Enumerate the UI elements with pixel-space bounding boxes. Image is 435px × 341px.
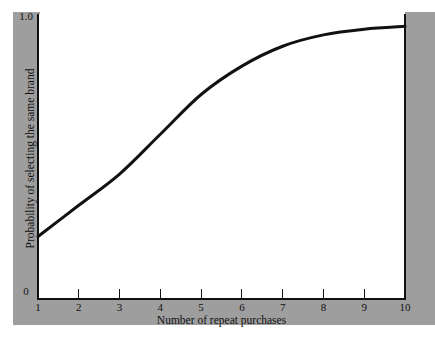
y-tick-label-top: 1.0 [14, 9, 38, 23]
x-tick-mark [160, 289, 161, 298]
x-tick-mark [119, 289, 120, 298]
x-tick-label: 10 [393, 300, 417, 314]
plot-area [38, 14, 405, 300]
x-tick-mark [364, 289, 365, 298]
y-axis-line [37, 14, 39, 300]
x-tick-label: 4 [148, 300, 172, 314]
x-tick-mark [282, 289, 283, 298]
decorative-band-right [405, 12, 435, 325]
x-axis-line [37, 298, 406, 300]
x-tick-mark [78, 289, 79, 298]
right-axis-line [404, 14, 406, 300]
figure-canvas: 12345678910 1.0 0 Number of repeat purch… [0, 0, 435, 341]
x-tick-label: 3 [108, 300, 132, 314]
x-tick-label: 7 [271, 300, 295, 314]
x-tick-label: 2 [67, 300, 91, 314]
x-tick-label: 5 [189, 300, 213, 314]
x-tick-mark [38, 289, 39, 298]
x-tick-label: 1 [26, 300, 50, 314]
x-tick-mark [201, 289, 202, 298]
x-tick-label: 9 [352, 300, 376, 314]
x-tick-mark [323, 289, 324, 298]
x-tick-label: 8 [311, 300, 335, 314]
y-axis-title: Probability of selecting the same brand [24, 24, 37, 294]
x-axis-title: Number of repeat purchases [38, 314, 405, 327]
x-tick-label: 6 [230, 300, 254, 314]
x-tick-mark [241, 289, 242, 298]
x-tick-mark [405, 289, 406, 298]
